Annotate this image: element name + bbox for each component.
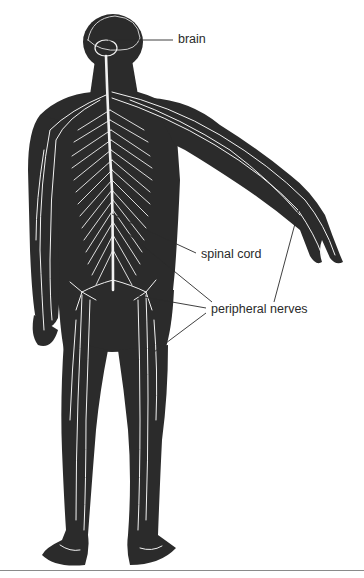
label-brain: brain xyxy=(178,33,206,46)
body-silhouette xyxy=(28,14,343,566)
label-spinal-cord: spinal cord xyxy=(201,248,261,261)
nervous-system-diagram xyxy=(0,0,364,578)
bottom-rule xyxy=(0,570,364,571)
peripheral-leader-line-4 xyxy=(274,205,300,302)
label-peripheral-nerves: peripheral nerves xyxy=(211,303,308,316)
